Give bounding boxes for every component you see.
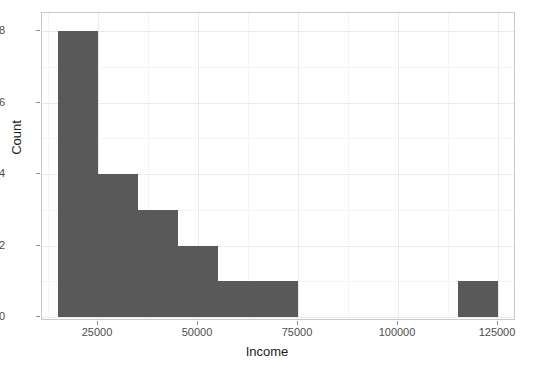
y-tick-mark [36,245,40,246]
histogram-bar [138,210,178,317]
x-tick-mark [197,321,198,325]
histogram-bar [178,246,218,318]
x-tick-mark [297,321,298,325]
histogram-bar [58,31,98,317]
y-tick-label: 8 [0,24,5,36]
x-tick-label: 125000 [479,326,516,338]
x-tick-label: 100000 [379,326,416,338]
y-tick-mark [36,316,40,317]
x-tick-label: 75000 [282,326,313,338]
y-tick-mark [36,30,40,31]
y-tick-label: 4 [0,167,5,179]
x-tick-label: 25000 [82,326,113,338]
gridline-minor-vertical [48,13,49,319]
histogram-bar [458,281,498,317]
gridline-major-vertical [398,13,399,319]
y-tick-label: 6 [0,96,5,108]
gridline-minor-vertical [348,13,349,319]
histogram-bar [218,281,258,317]
gridline-minor-vertical [248,13,249,319]
gridline-major-horizontal [42,317,514,318]
y-tick-mark [36,102,40,103]
histogram-bar [258,281,298,317]
y-tick-label: 2 [0,239,5,251]
x-axis-title: Income [0,344,534,359]
gridline-major-vertical [498,13,499,319]
x-tick-mark [397,321,398,325]
histogram-chart: 250005000075000100000125000 02468 Income… [0,0,534,374]
y-tick-mark [36,173,40,174]
y-tick-label: 0 [0,310,5,322]
gridline-major-horizontal [42,103,514,104]
plot-panel [41,12,515,320]
gridline-major-horizontal [42,31,514,32]
gridline-major-vertical [298,13,299,319]
histogram-bar [98,174,138,317]
gridline-minor-vertical [448,13,449,319]
gridline-minor-horizontal [42,138,514,139]
x-tick-mark [97,321,98,325]
gridline-minor-horizontal [42,67,514,68]
x-tick-label: 50000 [182,326,213,338]
y-axis-title: Count [9,78,24,198]
x-tick-mark [497,321,498,325]
